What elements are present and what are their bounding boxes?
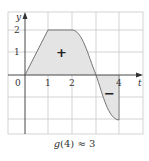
x-axis-label: t	[138, 78, 142, 88]
x-axis-arrow-icon	[136, 73, 143, 78]
x-tick-1: 1	[45, 78, 51, 88]
y-tick-2: 2	[14, 25, 20, 35]
x-tick-0: 0	[15, 78, 21, 88]
y-axis-label: y	[15, 12, 22, 22]
caption-value: (4) ≈ 3	[60, 138, 95, 149]
negative-sign: −	[104, 86, 115, 101]
y-tick-1: 1	[14, 47, 20, 57]
positive-sign: +	[56, 45, 67, 60]
graph-figure: y t 2 1 0 1 2 4 + −	[0, 0, 149, 161]
x-tick-4: 4	[116, 78, 122, 88]
figure-caption: g(4) ≈ 3	[0, 138, 149, 149]
y-axis-arrow-icon	[23, 12, 28, 19]
x-tick-2: 2	[69, 78, 75, 88]
